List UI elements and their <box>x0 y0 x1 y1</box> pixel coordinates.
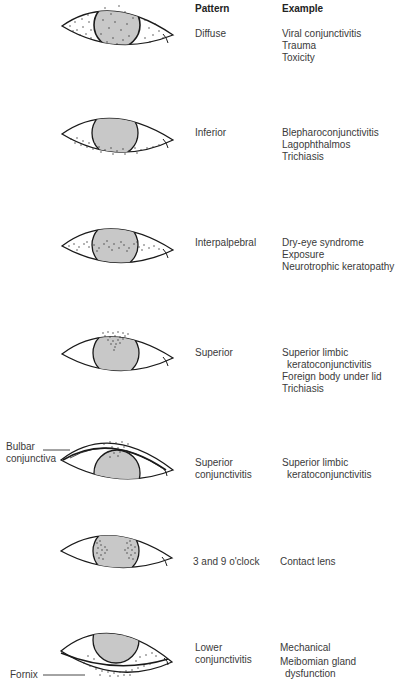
pattern-superior-conjunctivitis: Superiorconjunctivitis <box>195 457 252 481</box>
pattern-header: Pattern <box>195 3 229 14</box>
pattern-interpalpebral: Interpalpebral <box>195 237 256 249</box>
examples-3-and-9-oclock: Contact lens <box>280 556 336 568</box>
eye-diagram-lower-conjunctivitis <box>0 625 185 685</box>
eye-diagram-3-and-9-oclock <box>55 525 185 590</box>
eye-diagram-interpalpebral <box>55 215 185 285</box>
pattern-3-and-9-oclock: 3 and 9 o'clock <box>193 556 259 568</box>
eye-diagram-superior-conjunctivitis <box>0 430 185 490</box>
pattern-diffuse: Diffuse <box>195 28 226 40</box>
eye-diagram-superior <box>55 325 185 390</box>
eye-diagram-inferior <box>55 105 185 175</box>
examples-diffuse: Viral conjunctivitisTraumaToxicity <box>282 28 361 64</box>
pattern-lower-conjunctivitis: Lowerconjunctivitis <box>195 642 252 666</box>
examples-superior: Superior limbickeratoconjunctivitisForei… <box>282 347 382 395</box>
examples-superior-conjunctivitis: Superior limbickeratoconjunctivitis <box>282 457 371 481</box>
examples-interpalpebral: Dry-eye syndromeExposureNeurotrophic ker… <box>282 237 394 273</box>
examples-lower-conjunctivitis: MechanicalMeibomian glanddysfunction <box>280 642 356 680</box>
example-header: Example <box>282 3 323 14</box>
examples-inferior: BlepharoconjunctivitisLagophthalmosTrich… <box>282 127 379 163</box>
pattern-inferior: Inferior <box>195 127 226 139</box>
eye-diagram-diffuse <box>55 0 185 55</box>
pattern-superior: Superior <box>195 347 233 359</box>
